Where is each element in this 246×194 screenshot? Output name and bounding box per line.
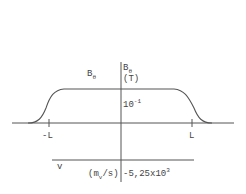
x-tick-label-minus-L: -L [42,132,53,141]
velocity-unit: (mv/s) [88,170,119,179]
b-theta-curve [28,89,212,123]
y-axis-unit: (T) [123,75,139,84]
velocity-value: -5,25x103 [123,170,170,179]
y-value-annotation: 10-1 [123,101,141,110]
curve-label: Bθ [87,70,96,79]
diagram-canvas [0,0,246,194]
x-tick-label-L: L [189,132,194,141]
y-axis-label: Bθ [123,64,132,73]
velocity-label: v [57,163,62,172]
